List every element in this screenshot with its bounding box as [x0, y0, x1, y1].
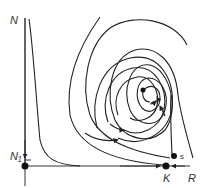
- n-axis-label: N: [10, 14, 18, 26]
- phase-portrait: N R N₁ K s: [0, 0, 209, 188]
- equilibrium-point-origin: [22, 163, 29, 170]
- spiral-loop-1: [95, 57, 173, 141]
- n1-label: N₁: [10, 150, 22, 162]
- saddle-point-s: [171, 153, 177, 159]
- trajectory-left: [29, 19, 80, 166]
- arrow-marker: [85, 133, 118, 141]
- r-axis-label: R: [188, 172, 196, 184]
- arrow-marker: [150, 101, 156, 104]
- arrow-marker: [157, 96, 158, 102]
- focus-point: [141, 88, 146, 93]
- s-label: s: [180, 152, 184, 161]
- equilibrium-point-k: [163, 163, 170, 170]
- spiral-loop-3: [116, 77, 158, 121]
- k-label: K: [163, 172, 171, 184]
